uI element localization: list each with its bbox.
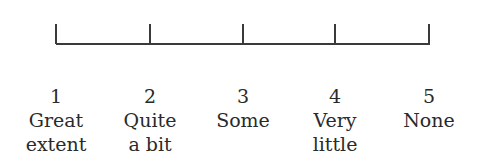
scale-tick-2 <box>149 24 151 44</box>
scale-label-line1: None <box>384 108 474 132</box>
scale-label-line1: Some <box>198 108 288 132</box>
scale-tick-1 <box>55 24 57 44</box>
scale-point-4: 4 Very little <box>290 84 380 156</box>
scale-tick-3 <box>242 24 244 44</box>
scale-value: 1 <box>11 84 101 108</box>
scale-value: 2 <box>105 84 195 108</box>
scale-label-line2: extent <box>11 132 101 156</box>
scale-tick-5 <box>428 24 430 44</box>
scale-point-5: 5 None <box>384 84 474 132</box>
scale-point-2: 2 Quite a bit <box>105 84 195 156</box>
scale-value: 5 <box>384 84 474 108</box>
scale-label-line1: Quite <box>105 108 195 132</box>
scale-label-line2: a bit <box>105 132 195 156</box>
scale-value: 3 <box>198 84 288 108</box>
scale-point-1: 1 Great extent <box>11 84 101 156</box>
scale-label-line2: little <box>290 132 380 156</box>
scale-label-line1: Very <box>290 108 380 132</box>
scale-point-3: 3 Some <box>198 84 288 132</box>
scale-tick-4 <box>334 24 336 44</box>
scale-label-line1: Great <box>11 108 101 132</box>
scale-value: 4 <box>290 84 380 108</box>
